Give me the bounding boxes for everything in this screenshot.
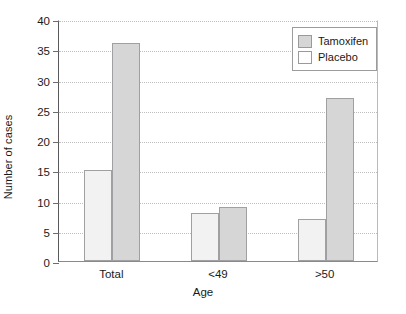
- bar-placebo-lt49: [191, 213, 219, 261]
- y-tick-10: [53, 203, 59, 204]
- chart-legend: Tamoxifen Placebo: [292, 27, 377, 71]
- y-tick-label-15: 15: [16, 166, 50, 178]
- y-tick-label-0: 0: [16, 257, 50, 269]
- y-axis-title: Number of cases: [0, 0, 16, 314]
- y-tick-40: [53, 21, 59, 22]
- y-tick-label-25: 25: [16, 106, 50, 118]
- gridline-y-40: [59, 21, 377, 22]
- y-tick-30: [53, 82, 59, 83]
- y-tick-label-35: 35: [16, 45, 50, 57]
- legend-swatch-tamoxifen: [298, 35, 312, 48]
- bar-placebo-gt50: [298, 219, 326, 261]
- bar-tamoxifen-Total: [112, 43, 140, 261]
- legend-item-placebo: Placebo: [298, 49, 368, 65]
- y-tick-label-30: 30: [16, 76, 50, 88]
- y-tick-label-20: 20: [16, 136, 50, 148]
- y-tick-5: [53, 233, 59, 234]
- x-tick-label-0: Total: [99, 268, 123, 280]
- y-tick-35: [53, 51, 59, 52]
- bar-chart-figure: Number of cases 0510152025303540 Age Tam…: [0, 0, 406, 314]
- x-axis-title: Age: [0, 286, 406, 298]
- legend-item-tamoxifen: Tamoxifen: [298, 33, 368, 49]
- y-tick-0: [53, 263, 59, 264]
- x-tick-label-1: <49: [208, 268, 228, 280]
- legend-label-tamoxifen: Tamoxifen: [318, 35, 368, 47]
- x-tick-label-2: >50: [315, 268, 335, 280]
- y-tick-25: [53, 112, 59, 113]
- legend-swatch-placebo: [298, 51, 312, 64]
- bar-tamoxifen-lt49: [219, 207, 247, 261]
- bar-tamoxifen-gt50: [326, 98, 354, 261]
- gridline-y-30: [59, 82, 377, 83]
- bar-placebo-Total: [84, 170, 112, 261]
- y-tick-20: [53, 142, 59, 143]
- y-tick-label-10: 10: [16, 197, 50, 209]
- y-tick-label-40: 40: [16, 15, 50, 27]
- y-tick-15: [53, 172, 59, 173]
- y-tick-label-5: 5: [16, 227, 50, 239]
- legend-label-placebo: Placebo: [318, 51, 358, 63]
